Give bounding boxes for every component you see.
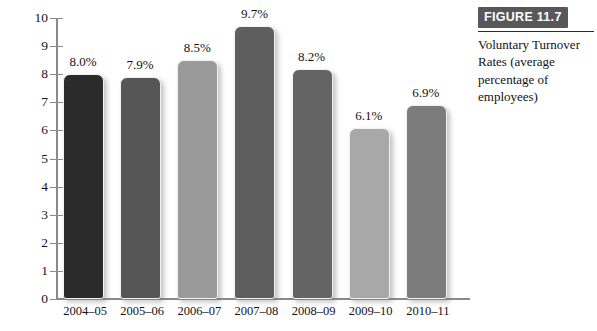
figure-caption-block: FIGURE 11.7 Voluntary Turnover Rates (av… — [478, 7, 594, 105]
figure-number-banner: FIGURE 11.7 — [478, 7, 568, 28]
bar-chart: 109876543210 8.0%7.9%8.5%9.7%8.2%6.1%6.9… — [0, 0, 470, 331]
figure-container: 109876543210 8.0%7.9%8.5%9.7%8.2%6.1%6.9… — [0, 0, 597, 331]
x-axis-category-label: 2010–11 — [394, 304, 462, 319]
caption-divider — [478, 31, 594, 32]
y-axis-labels: 109876543210 — [0, 18, 48, 299]
figure-caption-text: Voluntary Turnover Rates (average percen… — [478, 36, 594, 105]
x-axis-category-labels: 2004–052005–062006–072007–082008–092009–… — [57, 0, 457, 331]
